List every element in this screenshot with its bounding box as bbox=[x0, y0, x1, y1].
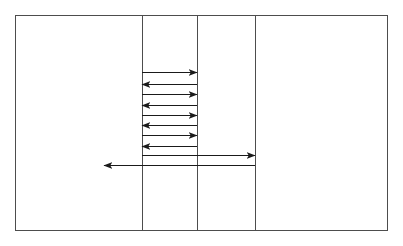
diagram-canvas bbox=[0, 0, 403, 246]
diagram-svg bbox=[0, 0, 403, 246]
outer-frame bbox=[16, 16, 388, 231]
